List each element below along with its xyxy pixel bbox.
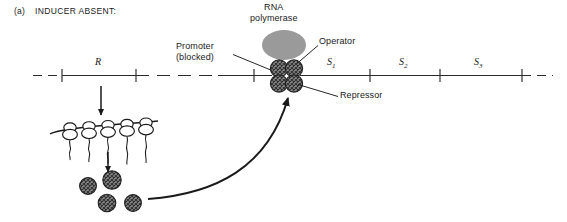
gene-label-s1-sub: 1 [332,62,336,70]
gene-label-s3-sub: 3 [479,62,483,70]
repressor-binding-arrow [148,98,288,199]
gene-label-r-text: R [95,56,101,67]
leader-promoter [233,55,272,71]
ribosome [82,122,97,139]
ribosome [63,123,78,140]
repressor-subunit-free-2 [103,171,121,189]
repressor-subunit-free-1 [80,178,97,195]
repressor-label: Repressor [340,90,382,100]
repressor-subunit-free-3 [98,194,116,212]
panel-tag: (a) [14,7,25,17]
peptide-chain [145,135,146,163]
peptide-chain [69,140,70,160]
free-repressor-subunits [80,171,142,212]
repressor-subunit-bound-4 [285,75,302,92]
rna-polymerase-label: RNA polymerase [250,2,298,23]
figure-canvas: (a) INDUCER ABSENT: RNA polymerase Promo… [0,0,567,222]
operator-label: Operator [319,36,355,46]
rna-polymerase-label-line2: polymerase [250,13,298,24]
repressor-tetramer-bound [270,60,302,92]
repressor-subunit-free-4 [125,195,142,212]
gene-label-s2-sub: 2 [404,62,408,70]
ribosome [139,118,154,135]
peptide-chain [126,137,127,165]
panel-title: INDUCER ABSENT: [35,7,116,17]
polysome [50,118,158,165]
gene-label-s2: S2 [399,56,408,71]
leader-repressor [298,85,338,97]
gene-label-r: R [95,56,101,67]
promoter-label-line2: (blocked) [176,52,214,63]
promoter-label-line1: Promoter [176,41,214,52]
gene-label-s3: S3 [474,56,483,71]
ribosome [101,121,116,138]
diagram-graphics [0,0,567,222]
rna-polymerase-label-line1: RNA [250,2,298,13]
ribosomes [63,118,154,140]
gene-label-s1: S1 [327,56,336,71]
promoter-label: Promoter (blocked) [176,41,214,62]
ribosome [120,119,135,136]
rna-polymerase-shape [262,30,306,60]
peptide-chain [88,139,89,162]
